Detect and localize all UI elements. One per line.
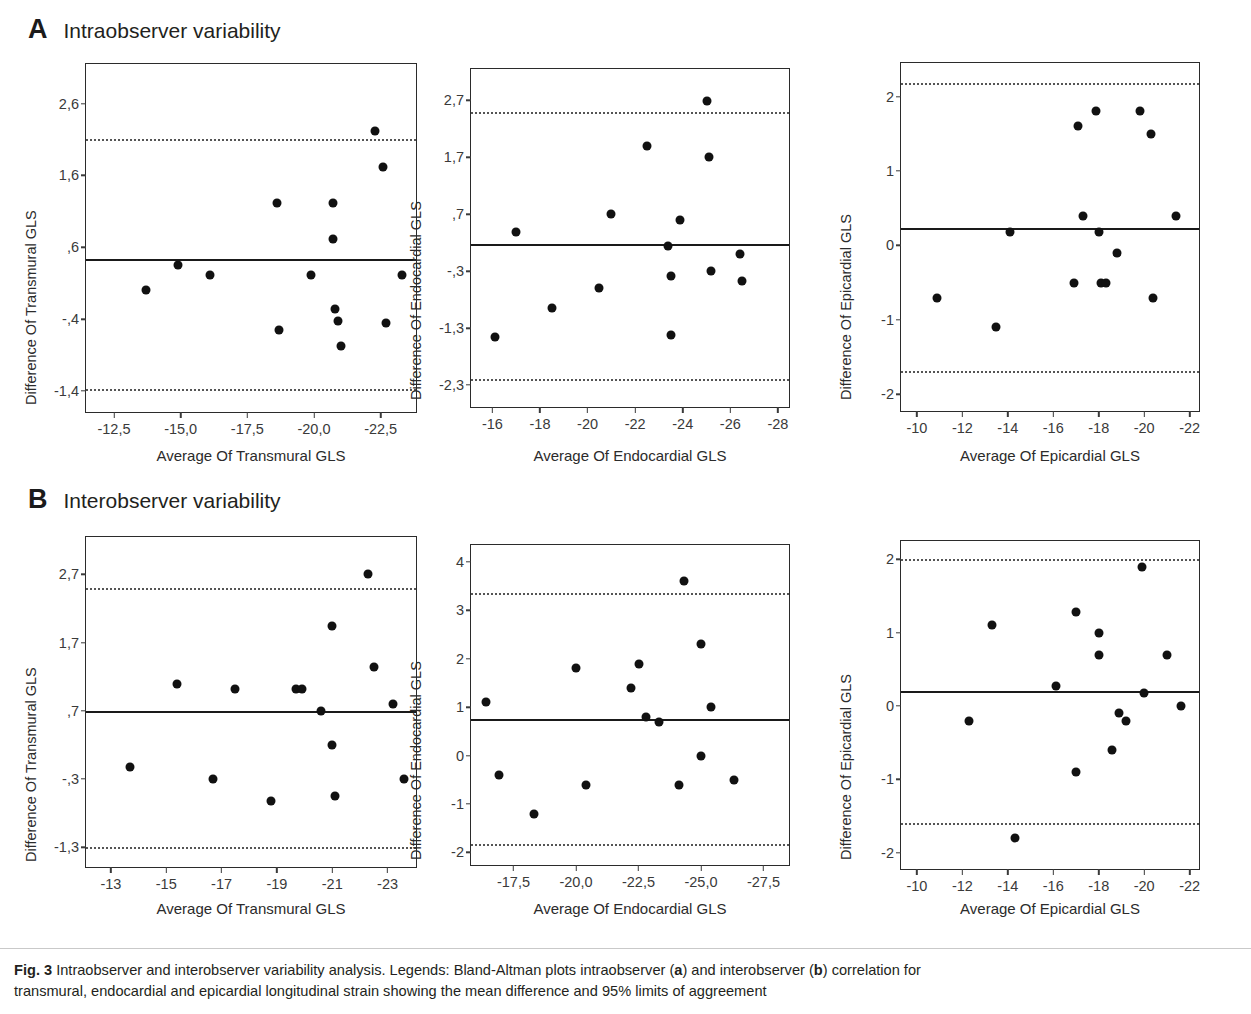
plot-frame-b-epicardial: 210-1-2-10-12-14-16-18-20-22 [900,540,1200,870]
x-axis-label-b-epicardial: Average Of Epicardial GLS [900,900,1200,917]
x-tick-b-epicardial-4: -18 [1088,869,1109,894]
x-tick-b-epicardial-5: -20 [1134,869,1155,894]
caption-divider [0,948,1251,949]
data-point [965,716,974,725]
data-point [1094,628,1103,637]
data-point [987,621,996,630]
caption-text-1: Intraobserver and interobserver variabil… [52,962,674,978]
data-point [1176,702,1185,711]
y-axis-label-b-epicardial: Difference Of Epicardial GLS [838,674,854,860]
data-point [1051,682,1060,691]
caption-label: Fig. 3 [14,962,52,978]
data-point [1072,608,1081,617]
y-tick-b-epicardial-0: 2 [886,551,901,567]
x-tick-b-epicardial-0: -10 [906,869,927,894]
caption-bold-b: b [814,962,823,978]
data-point [1137,562,1146,571]
data-point [1140,688,1149,697]
x-tick-b-epicardial-6: -22 [1179,869,1200,894]
mean-difference-line-b-epicardial [901,691,1199,693]
x-tick-b-epicardial-3: -16 [1043,869,1064,894]
y-tick-b-epicardial-4: -2 [881,845,901,861]
data-point [1162,650,1171,659]
data-point [1072,768,1081,777]
loa-upper-line-b-epicardial [901,559,1199,561]
x-tick-b-epicardial-2: -14 [997,869,1018,894]
data-point [1010,834,1019,843]
loa-lower-line-b-epicardial [901,823,1199,825]
y-tick-b-epicardial-3: -1 [881,771,901,787]
caption-text-3: ) correlation for [823,962,921,978]
data-point [1108,746,1117,755]
caption-line-2: transmural, endocardial and epicardial l… [14,981,1237,1002]
data-point [1122,716,1131,725]
x-tick-b-epicardial-1: -12 [952,869,973,894]
figure-root: A Intraobserver variability B Interobser… [0,0,1251,1014]
figure-caption: Fig. 3 Intraobserver and interobserver v… [14,960,1237,1002]
y-tick-b-epicardial-1: 1 [886,625,901,641]
caption-text-2: ) and interobserver ( [682,962,813,978]
plot-b-epicardial: 210-1-2-10-12-14-16-18-20-22Difference O… [0,0,1251,1014]
y-tick-b-epicardial-2: 0 [886,698,901,714]
data-point [1094,650,1103,659]
